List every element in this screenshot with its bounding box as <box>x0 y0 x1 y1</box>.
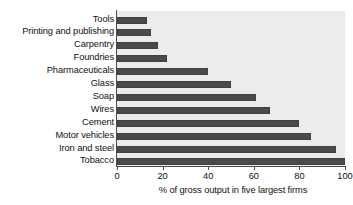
bar <box>117 158 345 165</box>
bar-chart: ToolsPrinting and publishingCarpentryFou… <box>0 0 353 205</box>
category-label: Printing and publishing <box>0 26 114 36</box>
x-axis-line <box>116 166 346 167</box>
x-tick-mark <box>208 167 209 170</box>
bar <box>117 81 231 88</box>
bar <box>117 17 147 24</box>
x-tick-mark <box>163 167 164 170</box>
category-label: Pharmaceuticals <box>0 65 114 75</box>
x-tick-label: 20 <box>157 171 167 182</box>
x-tick-label: 40 <box>203 171 213 182</box>
x-axis-title: % of gross output in five largest firms <box>117 185 349 196</box>
category-label: Soap <box>0 91 114 101</box>
category-label: Cement <box>0 117 114 127</box>
category-label: Wires <box>0 104 114 114</box>
category-label: Foundries <box>0 52 114 62</box>
y-axis-line <box>116 10 117 167</box>
bar <box>117 146 336 153</box>
category-axis: ToolsPrinting and publishingCarpentryFou… <box>0 11 114 166</box>
category-label: Iron and steel <box>0 143 114 153</box>
x-tick-label: 80 <box>294 171 304 182</box>
x-tick-label: 0 <box>114 171 119 182</box>
bar <box>117 55 167 62</box>
category-label: Carpentry <box>0 39 114 49</box>
bar <box>117 133 311 140</box>
x-tick-mark <box>345 167 346 170</box>
bar <box>117 120 299 127</box>
bar <box>117 42 158 49</box>
x-tick-mark <box>117 167 118 170</box>
category-label: Glass <box>0 78 114 88</box>
x-tick-label: 100 <box>337 171 353 182</box>
x-tick-label: 60 <box>249 171 259 182</box>
bar <box>117 68 208 75</box>
category-label: Tobacco <box>0 155 114 165</box>
plot-area <box>117 11 345 166</box>
category-label: Tools <box>0 14 114 24</box>
bar <box>117 29 151 36</box>
x-tick-mark <box>254 167 255 170</box>
category-label: Motor vehicles <box>0 130 114 140</box>
x-tick-mark <box>299 167 300 170</box>
bar <box>117 107 270 114</box>
bar <box>117 94 256 101</box>
